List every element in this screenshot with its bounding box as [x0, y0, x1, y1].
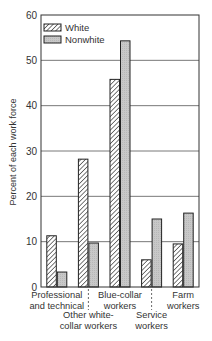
bar-nonwhite [184, 213, 194, 287]
bar-nonwhite [152, 219, 162, 287]
y-tick-label: 50 [26, 55, 38, 66]
legend-label-nonwhite: Nonwhite [65, 34, 105, 45]
bar-nonwhite [89, 243, 99, 287]
y-tick-label: 60 [26, 10, 38, 21]
category-label: workers [166, 301, 200, 311]
category-label: Blue-collar [98, 290, 142, 300]
legend: WhiteNonwhite [44, 22, 105, 45]
category-label: Service [136, 310, 167, 320]
legend-swatch-white [44, 24, 61, 31]
bar-white [47, 236, 57, 287]
bar-nonwhite [121, 41, 131, 287]
x-axis: Professionaland technicalOther white-col… [29, 289, 199, 331]
category-label: collar workers [60, 321, 118, 331]
bars [47, 41, 193, 287]
bar-white [110, 79, 120, 287]
y-tick-label: 30 [26, 146, 38, 157]
bar-white [78, 159, 88, 287]
category-label: Farm [172, 290, 194, 300]
legend-swatch-nonwhite [44, 36, 61, 43]
y-axis-label: Percent of each work force [8, 98, 18, 205]
category-label: workers [134, 321, 168, 331]
bar-nonwhite [57, 272, 67, 287]
y-axis: 0102030405060 [26, 10, 38, 293]
category-label: workers [103, 301, 137, 311]
bar-white [142, 260, 152, 287]
y-tick-label: 40 [26, 100, 38, 111]
bar-chart: 0102030405060 Professionaland technicalO… [0, 0, 212, 341]
y-tick-label: 20 [26, 191, 38, 202]
y-tick-label: 10 [26, 236, 38, 247]
category-label: Other white- [63, 310, 114, 320]
legend-label-white: White [65, 22, 89, 33]
bar-white [173, 244, 183, 287]
category-label: Professional [31, 290, 82, 300]
